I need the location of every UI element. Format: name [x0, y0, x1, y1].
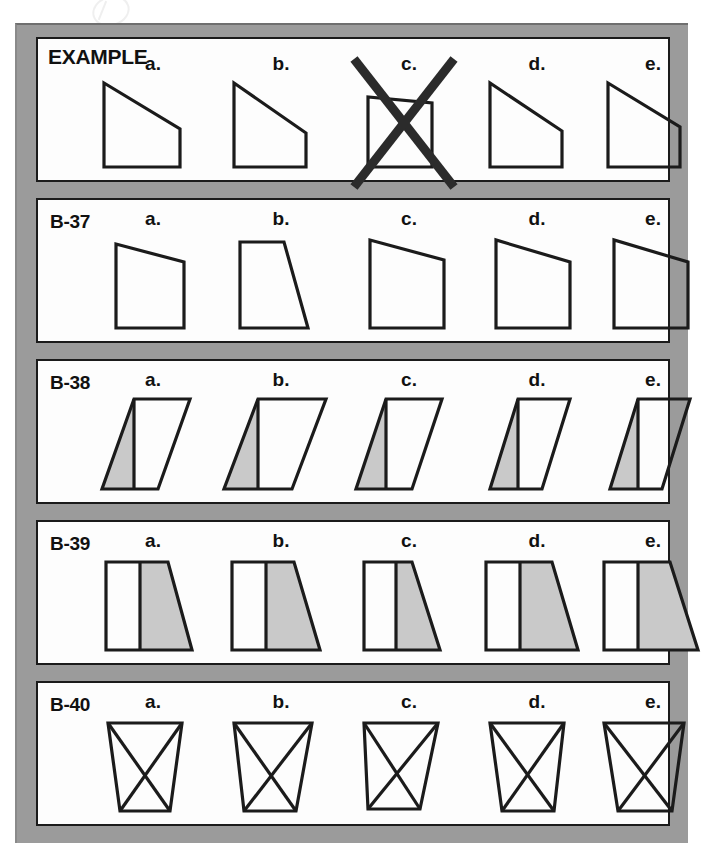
- question-row-b-40: B-40a.b.c.d.e.: [36, 681, 670, 826]
- shape-drawing: [478, 552, 596, 660]
- shape-drawing: [594, 552, 704, 660]
- question-row-b-39: B-39a.b.c.d.e.: [36, 520, 670, 665]
- answer-option-a[interactable]: a.: [94, 683, 212, 824]
- option-shape[interactable]: [222, 713, 340, 821]
- option-letter: c.: [350, 530, 468, 552]
- answer-option-b[interactable]: b.: [222, 39, 340, 180]
- option-shape[interactable]: [222, 391, 340, 499]
- shape-drawing: [350, 391, 468, 499]
- shape-drawing: [94, 75, 212, 183]
- option-shape[interactable]: [94, 230, 212, 338]
- answer-options: a.b.c.d.e.: [94, 200, 664, 341]
- answer-option-e[interactable]: e.: [594, 683, 704, 824]
- option-shape[interactable]: [350, 230, 468, 338]
- option-letter: d.: [478, 208, 596, 230]
- option-letter: b.: [222, 369, 340, 391]
- question-row-b-37: B-37a.b.c.d.e.: [36, 198, 670, 343]
- shape-drawing: [94, 552, 212, 660]
- option-shape[interactable]: [94, 391, 212, 499]
- row-label: B-39: [50, 533, 90, 555]
- answer-option-b[interactable]: b.: [222, 200, 340, 341]
- answer-option-c[interactable]: c.: [350, 683, 468, 824]
- option-shape[interactable]: [222, 552, 340, 660]
- option-shape[interactable]: [478, 230, 596, 338]
- answer-option-d[interactable]: d.: [478, 683, 596, 824]
- row-label: B-38: [50, 372, 90, 394]
- option-shape[interactable]: [350, 75, 468, 179]
- answer-option-a[interactable]: a.: [94, 522, 212, 663]
- shape-drawing: [94, 230, 212, 338]
- question-row-example: EXAMPLEa.b.c.d.e.: [36, 37, 670, 182]
- answer-option-e[interactable]: e.: [594, 200, 704, 341]
- answer-option-d[interactable]: d.: [478, 200, 596, 341]
- option-shape[interactable]: [478, 552, 596, 660]
- answer-option-a[interactable]: a.: [94, 361, 212, 502]
- answer-option-d[interactable]: d.: [478, 522, 596, 663]
- answer-option-e[interactable]: e.: [594, 361, 704, 502]
- option-shape[interactable]: [594, 713, 704, 821]
- option-letter: c.: [350, 369, 468, 391]
- option-shape[interactable]: [594, 391, 704, 499]
- option-shape[interactable]: [478, 713, 596, 821]
- option-shape[interactable]: [594, 75, 704, 179]
- answer-option-c[interactable]: c.: [350, 361, 468, 502]
- option-shape[interactable]: [350, 552, 468, 660]
- option-shape[interactable]: [94, 75, 212, 179]
- option-shape[interactable]: [222, 230, 340, 338]
- option-letter: c.: [350, 53, 468, 75]
- option-shape[interactable]: [94, 552, 212, 660]
- option-letter: a.: [94, 530, 212, 552]
- answer-option-d[interactable]: d.: [478, 39, 596, 180]
- answer-option-a[interactable]: a.: [94, 200, 212, 341]
- answer-options: a.b.c.d.e.: [94, 522, 664, 663]
- answer-option-a[interactable]: a.: [94, 39, 212, 180]
- answer-options: a.b.c.d.e.: [94, 683, 664, 824]
- option-letter: b.: [222, 530, 340, 552]
- option-letter: c.: [350, 691, 468, 713]
- shape-drawing: [350, 230, 468, 338]
- option-letter: d.: [478, 53, 596, 75]
- option-letter: a.: [94, 691, 212, 713]
- option-letter: e.: [594, 530, 704, 552]
- shape-drawing: [222, 391, 340, 499]
- question-rows: EXAMPLEa.b.c.d.e.B-37a.b.c.d.e.B-38a.b.c…: [36, 37, 670, 826]
- option-shape[interactable]: [94, 713, 212, 821]
- question-row-b-38: B-38a.b.c.d.e.: [36, 359, 670, 504]
- option-letter: e.: [594, 369, 704, 391]
- option-shape[interactable]: [222, 75, 340, 179]
- option-letter: a.: [94, 369, 212, 391]
- shape-drawing: [222, 75, 340, 183]
- shape-drawing: [222, 552, 340, 660]
- answer-options: a.b.c.d.e.: [94, 39, 664, 180]
- option-shape[interactable]: [350, 713, 468, 821]
- answer-option-b[interactable]: b.: [222, 683, 340, 824]
- shape-drawing: [350, 552, 468, 660]
- option-letter: e.: [594, 53, 704, 75]
- answer-option-c[interactable]: c.: [350, 522, 468, 663]
- answer-option-d[interactable]: d.: [478, 361, 596, 502]
- shape-drawing: [594, 75, 704, 183]
- shape-drawing: [478, 391, 596, 499]
- answer-option-b[interactable]: b.: [222, 522, 340, 663]
- option-shape[interactable]: [478, 391, 596, 499]
- option-shape[interactable]: [594, 230, 704, 338]
- shape-drawing: [478, 713, 596, 821]
- shape-drawing: [594, 713, 704, 821]
- answer-option-b[interactable]: b.: [222, 361, 340, 502]
- option-shape[interactable]: [594, 552, 704, 660]
- row-label: B-40: [50, 694, 90, 716]
- option-shape[interactable]: [478, 75, 596, 179]
- option-letter: b.: [222, 691, 340, 713]
- shape-drawing: [594, 391, 704, 499]
- answer-option-c[interactable]: c.: [350, 200, 468, 341]
- answer-option-e[interactable]: e.: [594, 522, 704, 663]
- answer-option-e[interactable]: e.: [594, 39, 704, 180]
- shape-drawing: [222, 230, 340, 338]
- shape-drawing: [94, 713, 212, 821]
- shape-drawing: [350, 75, 468, 183]
- shape-drawing: [222, 713, 340, 821]
- shape-drawing: [478, 75, 596, 183]
- option-letter: d.: [478, 691, 596, 713]
- option-shape[interactable]: [350, 391, 468, 499]
- answer-option-c[interactable]: c.: [350, 39, 468, 180]
